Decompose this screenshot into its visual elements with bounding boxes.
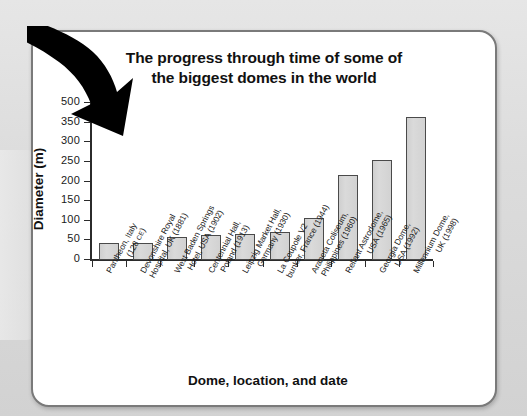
y-axis-tick: 50 — [84, 239, 91, 240]
y-axis-tick: 100 — [84, 220, 91, 221]
y-axis-tick: 500 — [84, 102, 91, 103]
y-axis-tick: 0 — [84, 259, 91, 260]
y-axis-tick: 350 — [84, 122, 91, 123]
y-axis-tick-label: 350 — [61, 115, 80, 127]
y-axis-tick: 150 — [84, 200, 91, 201]
chart-panel: The progress through time of some of the… — [31, 30, 497, 407]
y-axis-tick-label: 200 — [61, 174, 80, 186]
y-axis-title: Diameter (m) — [31, 124, 46, 254]
y-axis-tick-label: 0 — [74, 252, 80, 264]
x-axis-title: Dome, location, and date — [73, 373, 463, 388]
y-axis-tick: 250 — [84, 161, 91, 162]
y-axis-tick-label: 100 — [61, 213, 80, 225]
y-axis-tick: 300 — [84, 141, 91, 142]
y-axis-tick: 200 — [84, 181, 91, 182]
y-axis-tick-label: 250 — [61, 154, 80, 166]
x-axis-tick — [92, 261, 93, 267]
y-axis-tick-label: 500 — [61, 95, 80, 107]
y-axis-tick-label: 150 — [61, 193, 80, 205]
plot-area: Diameter (m) 050100150200250300350500 Pa… — [33, 32, 495, 405]
y-axis-tick-label: 300 — [61, 134, 80, 146]
y-axis-tick-label: 50 — [67, 232, 80, 244]
